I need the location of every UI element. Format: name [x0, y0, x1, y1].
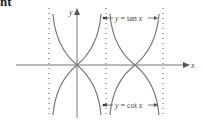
tan-label-eq: = tan [119, 14, 139, 23]
svg-text:y = cot x: y = cot x [114, 101, 143, 110]
tan-label-x: x [138, 14, 143, 23]
x-axis-label: x [190, 61, 195, 70]
cot-label-x: x [138, 101, 143, 110]
y-axis-label: y [68, 8, 73, 17]
tan-cot-graph: x y y = tan x y = cot x [0, 0, 203, 126]
svg-text:y = tan x: y = tan x [114, 14, 143, 23]
cot-label-eq: = cot [119, 101, 139, 110]
dotted-asymptotes [49, 8, 163, 114]
